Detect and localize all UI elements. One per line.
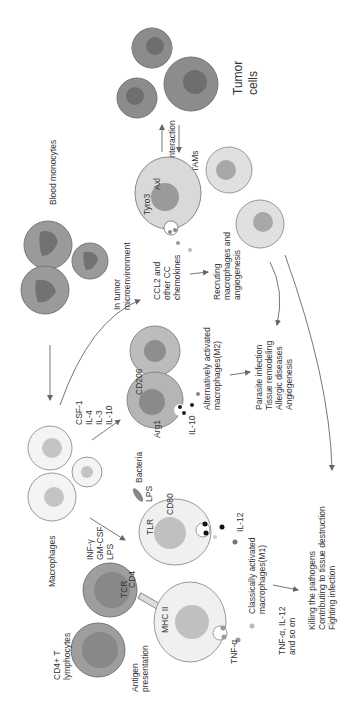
cd4t-label: CD4+ T lymphocytes [52, 633, 72, 680]
ccl2-label: CCL2 and other CC chemokines [152, 255, 182, 300]
m2-outcomes: Parasite infection Tissue remodeling All… [254, 338, 294, 410]
m1-label: Classically activated macrophages(M1) [247, 535, 267, 614]
inf-label: INF-γ GM-CSF LPS [85, 524, 115, 560]
arg1-label: Arg1 [152, 420, 162, 438]
il12-label: IL-12 [235, 512, 245, 532]
bacteria-label: Bacteria [134, 452, 144, 483]
interaction-label: Interaction [167, 120, 177, 160]
cd4-label: CD4 [127, 571, 137, 588]
mhc-label: MHC II [160, 607, 170, 633]
m2-label: Alternatively activated macrophages(M2) [202, 325, 222, 410]
tnf-label: TNF-α [229, 640, 239, 664]
resting-macrophages [28, 426, 102, 521]
cd206-label: CD206 [134, 368, 144, 395]
tyro3-label: Tyro3 [142, 193, 152, 215]
macrophages-label: Macrophages [47, 535, 57, 587]
m1-outcomes: Killing the pathogens Contributing to ti… [307, 504, 337, 630]
in-tumor-label: In tumor microenvironment [112, 242, 132, 310]
blood-monocytes-label: Blood monocytes [48, 140, 58, 205]
lps-label: LPS [144, 486, 154, 502]
tlr-label: TLR [145, 519, 155, 535]
macrophage-polarization-diagram: Tumor cells Interaction TAMs Tyro3 Axl B… [0, 0, 345, 714]
tumor-cells [117, 28, 218, 118]
csf-label: CSF-1 IL-4 IL-3 IL-10 [74, 398, 114, 425]
axl-label: Axl [152, 178, 162, 190]
blood-monocytes [21, 221, 108, 314]
antigen-label: Antigen presentation [130, 645, 150, 692]
tumor-cells-label: Tumor cells [231, 57, 260, 95]
recruiting-label: Recruting macrophages and angiogenesis [212, 230, 242, 300]
il10-label: IL-10 [187, 415, 197, 435]
m1-secreted: TNF-α, IL-12 and so on [277, 604, 297, 655]
cd80-label: CD80 [165, 493, 175, 515]
tams [206, 147, 284, 248]
